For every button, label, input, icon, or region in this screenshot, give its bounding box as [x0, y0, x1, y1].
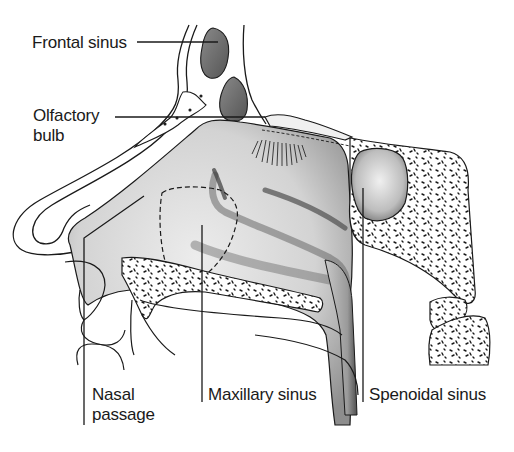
label-olfactory-bulb: Olfactory bulb [33, 106, 99, 146]
cervical-vertebrae [429, 297, 490, 365]
label-frontal-sinus: Frontal sinus [32, 33, 127, 53]
label-sphenoidal-sinus: Spenoidal sinus [369, 385, 486, 405]
label-nasal-passage-line1: Nasal [92, 385, 155, 405]
sphenoidal-sinus [352, 148, 408, 220]
label-nasal-passage: Nasal passage [92, 385, 155, 425]
label-maxillary-sinus: Maxillary sinus [208, 385, 316, 405]
label-olfactory-bulb-line1: Olfactory [33, 106, 99, 126]
sphenoid-bone [350, 138, 476, 303]
label-olfactory-bulb-line2: bulb [33, 126, 99, 146]
label-nasal-passage-line2: passage [92, 405, 155, 425]
nasal-anatomy-diagram: Frontal sinus Olfactory bulb Nasal passa… [0, 0, 514, 452]
